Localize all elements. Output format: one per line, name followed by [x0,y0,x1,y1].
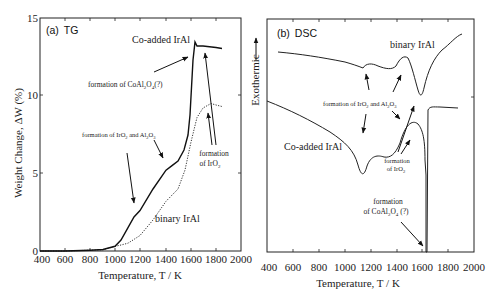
tg-anno-iro2-line2: of IrO2 [199,159,221,169]
dsc-x-tick-labels: 400 600 800 1000 1200 1400 1600 1800 200… [261,261,486,273]
tg-y-axis-title: Weight Change, ΔW (%) [12,88,25,198]
arrow-icon [401,140,410,154]
arrow-icon [154,140,163,158]
arrow-icon [401,222,423,246]
tick-label: 1000 [334,261,357,273]
dsc-x-ticks [293,19,474,252]
tg-anno-coal2o4: formation of CoAl2O4(?) [88,80,163,90]
arrow-icon [393,75,401,92]
arrow-icon [398,106,414,152]
tick-label: 800 [311,261,328,273]
arrow-icon [154,57,188,72]
tick-label: 800 [82,253,99,265]
dsc-co-added-iral-curve [267,101,458,252]
dsc-x-axis-title: Temperature, T / K [316,277,400,289]
dsc-anno-coal2o4-line2: of CoAl2O4 (?) [364,207,409,217]
tg-x-axis-title: Temperature, T / K [98,269,182,281]
tick-label: 10 [27,89,39,101]
tick-label: 5 [33,167,39,179]
arrow-icon [127,153,134,203]
tick-label: 600 [57,253,74,265]
tick-label: 1200 [129,253,152,265]
arrow-icon [366,74,369,90]
arrow-icon [208,113,212,145]
dsc-anno-iro2-al2o3: formation of IrO2 and Al2O3 [323,100,397,109]
dsc-panel-label: (b)DSC [277,27,317,39]
figure: 400 600 800 1000 1200 1400 1600 1800 200… [0,0,500,297]
tick-label: 1800 [437,261,460,273]
tick-label: 600 [285,261,302,273]
arrow-icon [392,111,400,119]
tick-label: 2000 [463,261,486,273]
dsc-label-binary: binary IrAl [390,39,435,50]
tg-anno-iro2-line1: formation [199,149,229,158]
tick-label: 1000 [104,253,127,265]
tick-label: 1600 [180,253,203,265]
arrow-icon [363,114,366,133]
tick-label: 1200 [360,261,383,273]
tick-label: 1600 [411,261,434,273]
tick-label: 1800 [205,253,228,265]
tick-label: 1400 [386,261,409,273]
dsc-anno-iro2-line2: of IrO2 [387,165,405,174]
tg-label-binary: binary IrAl [155,213,200,224]
dsc-anno-iro2-line1: formation [384,157,410,164]
tg-y-tick-labels: 0 5 10 15 [27,12,39,257]
dsc-y-axis-title: Exothermic [249,54,261,105]
tg-binary-iral-curve [40,104,222,252]
dsc-label-co-added: Co-added IrAl [284,141,342,152]
tg-anno-iro2-al2o3: formation of IrO2 and Al2O3 [82,131,156,140]
tg-panel-label: (a)TG [46,24,78,36]
tick-label: 15 [27,12,39,24]
dsc-anno-coal2o4-line1: formation [373,197,403,206]
tick-label: 0 [33,245,39,257]
tg-label-co-added: Co-added IrAl [132,34,190,45]
tick-label: 1400 [155,253,178,265]
tick-label: 400 [261,261,278,273]
tick-label: 2000 [230,253,253,265]
tg-x-tick-labels: 400 600 800 1000 1200 1400 1600 1800 200… [34,253,253,265]
dsc-panel: 400 600 800 1000 1200 1400 1600 1800 200… [249,19,486,289]
tg-panel: 400 600 800 1000 1200 1400 1600 1800 200… [12,12,253,281]
